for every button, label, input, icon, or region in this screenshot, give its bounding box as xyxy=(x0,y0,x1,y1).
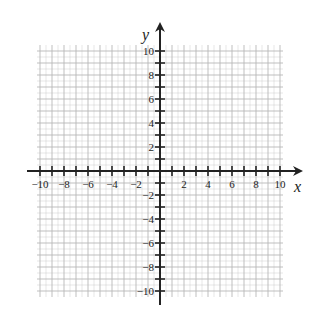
x-tick-label: 10 xyxy=(275,178,287,190)
x-tick-label: −10 xyxy=(31,178,49,190)
y-tick-label: −4 xyxy=(142,213,154,225)
x-tick-label: 4 xyxy=(205,178,211,190)
x-tick-label: 8 xyxy=(253,178,259,190)
x-tick-label: 6 xyxy=(229,178,235,190)
x-tick-label: 2 xyxy=(181,178,187,190)
x-tick-label: −8 xyxy=(58,178,70,190)
x-tick-label: −4 xyxy=(106,178,118,190)
x-tick-label: −2 xyxy=(130,178,142,190)
x-tick-label: −6 xyxy=(82,178,94,190)
y-tick-label: −10 xyxy=(137,285,155,297)
y-tick-label: 4 xyxy=(149,117,155,129)
axes xyxy=(27,22,303,305)
y-tick-label: 6 xyxy=(149,93,155,105)
y-tick-label: 8 xyxy=(149,69,155,81)
y-tick-label: 2 xyxy=(149,141,155,153)
y-tick-label: 10 xyxy=(143,45,155,57)
x-axis-label: x xyxy=(293,178,301,195)
y-tick-label: −2 xyxy=(142,189,154,201)
coordinate-plane: −10−8−6−4−2246810108642−2−4−6−8−10 x y xyxy=(0,0,321,324)
y-tick-label: −6 xyxy=(142,237,154,249)
y-tick-label: −8 xyxy=(142,261,154,273)
y-axis-label: y xyxy=(140,26,150,44)
